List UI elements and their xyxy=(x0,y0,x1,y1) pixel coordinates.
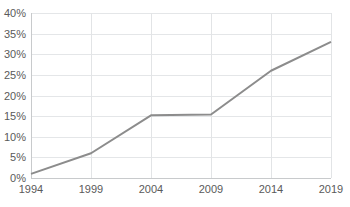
y-axis-tick-label: 10% xyxy=(4,131,26,143)
x-axis-tick-label: 2004 xyxy=(139,183,163,195)
x-axis-tick-label: 2014 xyxy=(259,183,283,195)
chart-canvas: 0%5%10%15%20%25%30%35%40% 19941999200420… xyxy=(0,0,350,207)
line-chart: 0%5%10%15%20%25%30%35%40% 19941999200420… xyxy=(0,0,350,207)
y-axis-tick-label: 40% xyxy=(4,7,26,19)
y-axis-tick-label: 30% xyxy=(4,48,26,60)
x-axis-tick-label: 2019 xyxy=(319,183,343,195)
x-axis-tick-label: 1994 xyxy=(19,183,43,195)
y-axis-tick-label: 25% xyxy=(4,69,26,81)
x-axis-tick-label: 2009 xyxy=(199,183,223,195)
y-axis-tick-label: 15% xyxy=(4,110,26,122)
plot-background xyxy=(0,0,350,207)
y-axis-tick-label: 35% xyxy=(4,28,26,40)
y-axis-tick-label: 5% xyxy=(10,151,26,163)
x-axis-tick-label: 1999 xyxy=(79,183,103,195)
y-axis-tick-label: 20% xyxy=(4,90,26,102)
